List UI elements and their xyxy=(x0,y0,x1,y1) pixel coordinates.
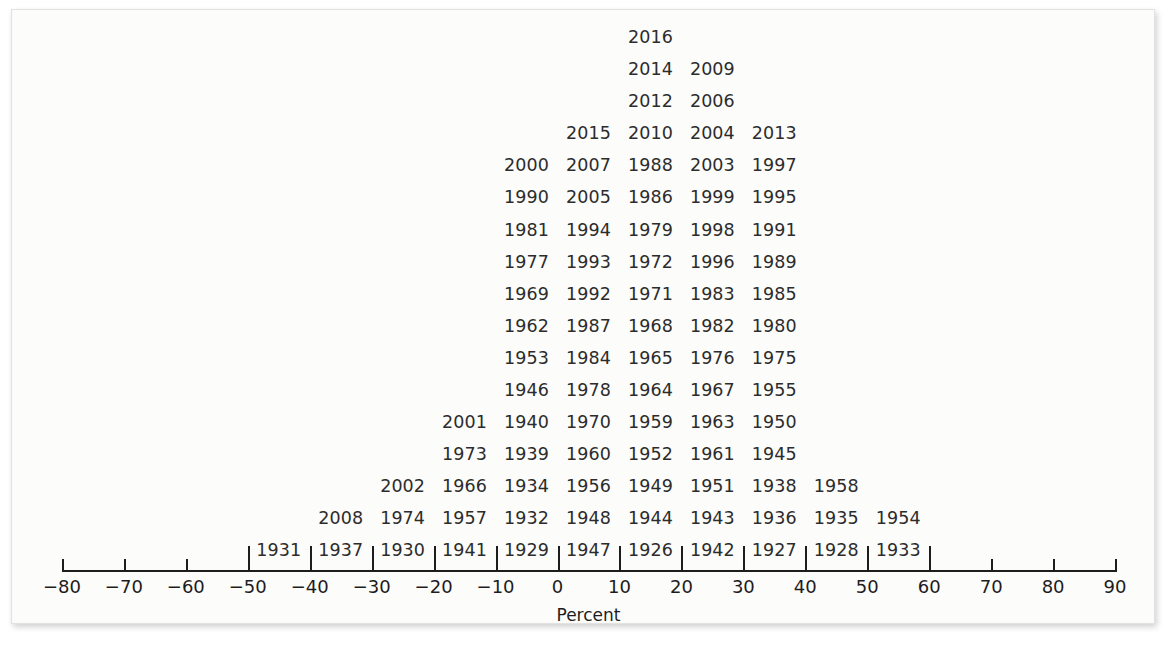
bin-separator-tick xyxy=(681,546,683,559)
x-axis-tick-label: −70 xyxy=(105,578,143,596)
x-axis-tick xyxy=(867,559,869,571)
year-label: 1949 xyxy=(628,478,673,496)
x-axis-tick-label: −80 xyxy=(43,578,81,596)
year-label: 1963 xyxy=(690,414,735,432)
bin-separator-tick xyxy=(496,546,498,559)
year-label: 1931 xyxy=(256,542,301,560)
x-axis-tick-label: 20 xyxy=(670,578,693,596)
year-label: 1990 xyxy=(504,190,549,208)
x-axis-tick-label: 10 xyxy=(608,578,631,596)
figure-page: 2016201420092012200620152010200420132000… xyxy=(0,0,1171,657)
year-label: 1935 xyxy=(814,510,859,528)
x-axis-tick-label: −10 xyxy=(477,578,515,596)
year-label: 1962 xyxy=(504,318,549,336)
x-axis-tick-label: −30 xyxy=(353,578,391,596)
x-axis-tick-label: 50 xyxy=(856,578,879,596)
year-label: 1975 xyxy=(752,350,797,368)
x-axis-tick xyxy=(805,559,807,571)
year-label: 1969 xyxy=(504,286,549,304)
bin-separator-tick xyxy=(558,546,560,559)
year-label: 1965 xyxy=(628,350,673,368)
year-label: 1936 xyxy=(752,510,797,528)
year-label: 1928 xyxy=(814,542,859,560)
x-axis-tick-label: −60 xyxy=(167,578,205,596)
year-label: 1978 xyxy=(566,382,611,400)
x-axis-tick xyxy=(372,559,374,571)
x-axis-tick-label: 80 xyxy=(1042,578,1065,596)
x-axis-tick xyxy=(248,559,250,571)
x-axis-tick-label: 70 xyxy=(980,578,1003,596)
year-label: 1926 xyxy=(628,542,673,560)
year-label: 1947 xyxy=(566,542,611,560)
x-axis-tick xyxy=(743,559,745,571)
year-label: 1968 xyxy=(628,318,673,336)
year-label: 1993 xyxy=(566,254,611,272)
bin-separator-tick xyxy=(434,546,436,559)
x-axis-tick xyxy=(1053,559,1055,571)
year-label: 1938 xyxy=(752,478,797,496)
year-label: 1951 xyxy=(690,478,735,496)
bin-separator-tick xyxy=(743,546,745,559)
x-axis-tick xyxy=(496,559,498,571)
year-label: 1997 xyxy=(752,158,797,176)
year-label: 1930 xyxy=(380,542,425,560)
year-label: 1959 xyxy=(628,414,673,432)
year-label: 2012 xyxy=(628,94,673,112)
x-axis-tick xyxy=(991,559,993,571)
year-label: 1985 xyxy=(752,286,797,304)
year-label: 2016 xyxy=(628,29,673,47)
bin-separator-tick xyxy=(805,546,807,559)
year-label: 1982 xyxy=(690,318,735,336)
year-label: 2008 xyxy=(318,510,363,528)
x-axis-tick xyxy=(434,559,436,571)
x-axis-tick xyxy=(310,559,312,571)
year-label: 1988 xyxy=(628,158,673,176)
year-label: 2013 xyxy=(752,126,797,144)
bin-separator-tick xyxy=(248,546,250,559)
year-label: 1952 xyxy=(628,446,673,464)
year-label: 1964 xyxy=(628,382,673,400)
x-axis-tick xyxy=(1115,559,1117,571)
year-label: 1957 xyxy=(442,510,487,528)
x-axis-tick-label: −50 xyxy=(229,578,267,596)
year-label: 1989 xyxy=(752,254,797,272)
year-label: 1973 xyxy=(442,446,487,464)
year-label: 1976 xyxy=(690,350,735,368)
x-axis-tick xyxy=(62,559,64,571)
year-label: 1954 xyxy=(876,510,921,528)
year-label: 1967 xyxy=(690,382,735,400)
x-axis-tick-label: 90 xyxy=(1104,578,1127,596)
x-axis-tick-label: 30 xyxy=(732,578,755,596)
year-label: 2004 xyxy=(690,126,735,144)
year-label: 1961 xyxy=(690,446,735,464)
year-label: 1933 xyxy=(876,542,921,560)
year-label: 1983 xyxy=(690,286,735,304)
x-axis-line xyxy=(62,570,1117,572)
year-label: 1943 xyxy=(690,510,735,528)
year-label: 1940 xyxy=(504,414,549,432)
year-label: 1981 xyxy=(504,222,549,240)
year-label: 1977 xyxy=(504,254,549,272)
year-label: 1955 xyxy=(752,382,797,400)
year-label: 2010 xyxy=(628,126,673,144)
year-label: 1932 xyxy=(504,510,549,528)
bin-separator-tick xyxy=(619,546,621,559)
x-axis-tick xyxy=(681,559,683,571)
year-label: 2015 xyxy=(566,126,611,144)
year-label: 1999 xyxy=(690,190,735,208)
year-label: 1974 xyxy=(380,510,425,528)
year-label: 1960 xyxy=(566,446,611,464)
year-label: 2001 xyxy=(442,414,487,432)
year-label: 1946 xyxy=(504,382,549,400)
year-label: 1971 xyxy=(628,286,673,304)
year-label: 1996 xyxy=(690,254,735,272)
year-label: 1984 xyxy=(566,350,611,368)
year-label: 1986 xyxy=(628,190,673,208)
year-label: 1927 xyxy=(752,542,797,560)
year-label: 2002 xyxy=(380,478,425,496)
x-axis-tick-label: −40 xyxy=(291,578,329,596)
year-label: 1980 xyxy=(752,318,797,336)
year-label: 1994 xyxy=(566,222,611,240)
x-axis-title: Percent xyxy=(556,605,620,625)
year-label: 1987 xyxy=(566,318,611,336)
